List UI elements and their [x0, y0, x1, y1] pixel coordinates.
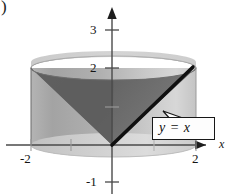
- x-axis-arrow: [195, 141, 206, 150]
- y-tick-label-3: 3: [90, 23, 97, 36]
- figure-part-mark: ): [1, 0, 7, 17]
- x-tick-label-2: 2: [192, 152, 199, 165]
- cylinder-top-band: [31, 51, 196, 68]
- y-tick-label-minus-1: -1: [86, 175, 97, 188]
- x-tick-label-minus-2: -2: [20, 152, 31, 165]
- callout-y-equals-x: y = x: [152, 117, 215, 140]
- x-axis-label: x: [219, 138, 224, 150]
- callout-label: y = x: [159, 120, 190, 135]
- y-tick-label-2: 2: [90, 61, 97, 74]
- y-axis-arrow: [107, 7, 116, 19]
- figure-canvas: ) 3 2 -1 -2 2 x y = x: [0, 0, 226, 194]
